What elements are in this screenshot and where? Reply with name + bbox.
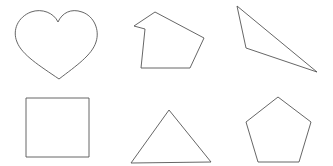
canvas-background	[0, 0, 333, 166]
shape-canvas	[0, 0, 333, 166]
